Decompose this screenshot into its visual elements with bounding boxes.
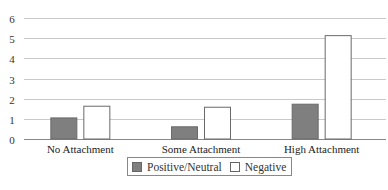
bar-positive-neutral bbox=[51, 118, 77, 139]
y-tick-label: 1 bbox=[9, 114, 15, 126]
bar-negative bbox=[205, 107, 231, 139]
legend-label-positive-neutral: Positive/Neutral bbox=[147, 161, 222, 173]
y-tick-label: 0 bbox=[9, 134, 15, 146]
legend-label-negative: Negative bbox=[245, 161, 287, 173]
legend-swatch-negative bbox=[230, 162, 240, 172]
bars bbox=[51, 36, 351, 139]
bar-positive-neutral bbox=[172, 127, 198, 139]
y-tick-label: 2 bbox=[9, 94, 15, 106]
legend-item-negative: Negative bbox=[230, 161, 287, 173]
y-tick-label: 6 bbox=[9, 13, 15, 25]
legend: Positive/Neutral Negative bbox=[127, 157, 292, 176]
x-axis-labels: No AttachmentSome AttachmentHigh Attachm… bbox=[47, 143, 360, 155]
bar-positive-neutral bbox=[292, 104, 318, 139]
bar-negative bbox=[325, 36, 351, 139]
x-category-label: Some Attachment bbox=[162, 143, 241, 155]
legend-swatch-positive-neutral bbox=[132, 162, 142, 172]
bar-negative bbox=[84, 106, 110, 139]
y-tick-label: 5 bbox=[9, 33, 15, 45]
y-tick-label: 3 bbox=[9, 74, 15, 86]
legend-item-positive-neutral: Positive/Neutral bbox=[132, 161, 222, 173]
x-category-label: High Attachment bbox=[284, 143, 359, 155]
x-category-label: No Attachment bbox=[47, 143, 114, 155]
y-tick-label: 4 bbox=[9, 53, 15, 65]
y-axis-ticks: 0123456 bbox=[9, 13, 15, 146]
